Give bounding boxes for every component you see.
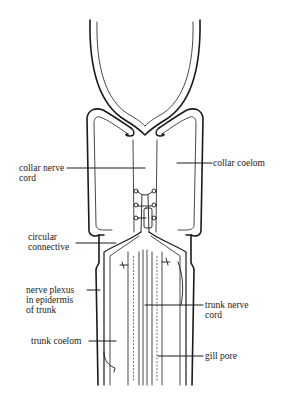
label-collar-nerve-cord: collar nerve cord [19, 163, 64, 183]
collar-right-flap [159, 109, 203, 236]
label-gill-pore: gill pore [205, 351, 237, 361]
label-trunk-coelom: trunk coelom [31, 336, 81, 346]
nerve-roots [134, 189, 156, 232]
trunk-nerve-cord [143, 250, 147, 385]
label-circular-connective: circular connective [28, 232, 69, 252]
label-trunk-nerve-cord: trunk nerve cord [205, 300, 249, 320]
trunk-wall-left-outer [96, 235, 99, 385]
collar-right-inner [162, 117, 196, 230]
label-collar-coelom: collar coelom [213, 158, 265, 168]
proboscis-inner [97, 22, 193, 126]
collar-left-flap [87, 109, 131, 236]
label-nerve-plexus: nerve plexus in epidermis of trunk [26, 285, 74, 315]
trunk-wall-right-outer [191, 235, 194, 385]
gill-bead-chains [134, 256, 158, 381]
circular-connective-left [104, 232, 141, 385]
collar-left-inner [94, 117, 128, 230]
proboscis-outer [90, 20, 200, 135]
circular-connective-right [149, 232, 186, 385]
